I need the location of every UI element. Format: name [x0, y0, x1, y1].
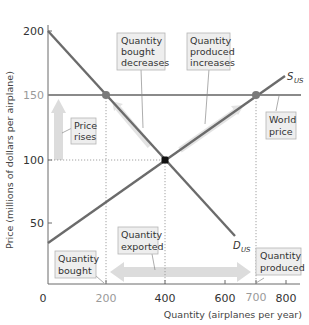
- svg-text:bought: bought: [121, 46, 155, 57]
- exports-chart: Price (millions of dollars per airplane)…: [0, 0, 309, 325]
- svg-text:Quantity: Quantity: [58, 253, 99, 264]
- svg-text:produced: produced: [260, 262, 305, 273]
- svg-text:Quantity: Quantity: [260, 250, 301, 261]
- svg-text:World: World: [269, 114, 296, 125]
- annotation-qty-produced: Quantity produced: [256, 248, 305, 275]
- svg-text:price: price: [269, 126, 293, 137]
- svg-text:exported: exported: [121, 241, 164, 252]
- annotation-qty-bought: Quantity bought: [55, 251, 99, 278]
- svg-text:D: D: [233, 240, 241, 251]
- svg-text:Quantity: Quantity: [121, 35, 162, 46]
- x-tick-800: 800: [276, 292, 297, 305]
- svg-text:produced: produced: [190, 46, 235, 57]
- x-tick-600: 600: [215, 292, 236, 305]
- y-tick-100: 100: [23, 154, 44, 167]
- y-tick-200: 200: [23, 25, 44, 38]
- y-axis-title: Price (millions of dollars per airplane): [4, 71, 15, 249]
- svg-text:S: S: [287, 71, 294, 82]
- x-tick-400: 400: [155, 292, 176, 305]
- svg-text:Quantity: Quantity: [190, 35, 231, 46]
- equilibrium-point: [162, 157, 169, 164]
- quantity-exported-arrow: [110, 262, 251, 282]
- annotation-world-price: World price: [266, 112, 296, 139]
- svg-text:US: US: [294, 77, 304, 85]
- x-tick-200: 200: [96, 292, 117, 305]
- annotation-qty-produced-increases: Quantity produced increases: [187, 33, 235, 70]
- svg-text:Price: Price: [74, 120, 97, 131]
- svg-text:US: US: [241, 246, 251, 254]
- svg-text:increases: increases: [190, 57, 235, 68]
- annotation-qty-bought-decreases: Quantity bought decreases: [117, 33, 169, 70]
- svg-text:Quantity: Quantity: [121, 229, 162, 240]
- demand-label: D US: [233, 240, 251, 254]
- svg-text:rises: rises: [74, 131, 96, 142]
- annotation-qty-exported: Quantity exported: [118, 227, 164, 254]
- svg-text:decreases: decreases: [121, 57, 169, 68]
- annotation-price-rises: Price rises: [71, 118, 97, 144]
- price-rises-arrow: [51, 99, 66, 160]
- x-axis-title: Quantity (airplanes per year): [164, 309, 302, 320]
- x-tick-0: 0: [40, 292, 47, 305]
- x-tick-700: 700: [246, 291, 267, 304]
- y-tick-150: 150: [23, 89, 44, 102]
- supply-label: S US: [287, 71, 304, 85]
- world-price-demand-point: [102, 91, 110, 99]
- y-tick-50: 50: [30, 217, 44, 230]
- svg-text:bought: bought: [58, 265, 92, 276]
- world-price-supply-point: [252, 91, 260, 99]
